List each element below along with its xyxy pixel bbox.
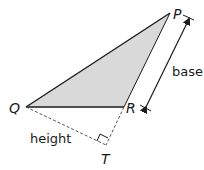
triangle-diagram: P Q R T base height [0,0,204,170]
vertex-label-r: R [126,100,136,116]
extension-rt [106,107,124,145]
vertex-label-q: Q [9,100,20,116]
right-angle-marker [97,134,108,141]
base-label: base [172,64,203,79]
height-label: height [30,131,71,146]
base-tick-bottom [140,105,151,111]
vertex-label-p: P [173,6,182,22]
vertex-label-t: T [101,151,111,167]
